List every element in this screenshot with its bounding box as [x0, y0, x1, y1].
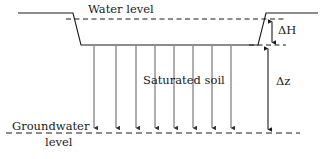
- groundwater-label-line2: level: [45, 137, 72, 149]
- figure-container: Water level Saturated soil Groundwater l…: [0, 0, 328, 159]
- saturated-soil-label: Saturated soil: [143, 75, 225, 87]
- seepage-arrow-group: [94, 46, 231, 128]
- water-level-label: Water level: [88, 4, 154, 16]
- delta-h-label: ΔH: [278, 25, 296, 37]
- delta-z-label: Δz: [276, 76, 290, 88]
- ground-profile: [18, 13, 318, 45]
- groundwater-label-line1: Groundwater: [12, 121, 89, 133]
- ground-surface-line: [18, 13, 318, 45]
